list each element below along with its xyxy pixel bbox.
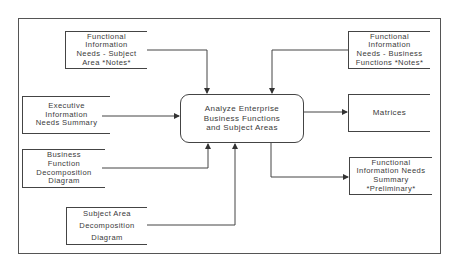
arrow-subject-area-notes-to-process [147, 50, 207, 93]
store-bf-decomposition: Business Function Decomposition Diagram [22, 149, 105, 188]
store-label: Matrices [373, 109, 406, 118]
store-fin-summary: Functional Information Needs Summary *Pr… [349, 157, 432, 195]
store-label: Functional Information Needs Summary *Pr… [357, 159, 426, 193]
store-label: Functional Information Needs - Business … [356, 33, 424, 67]
store-label: Business Function Decomposition Diagram [36, 151, 91, 185]
store-sa-decomposition: Subject Area Decomposition Diagram [66, 207, 147, 245]
arrow-sa-decomp-to-process [147, 144, 235, 225]
store-fin-subject-area: Functional Information Needs - Subject A… [65, 31, 147, 69]
store-matrices: Matrices [348, 94, 430, 132]
store-label: Functional Information Needs - Subject A… [76, 33, 136, 67]
store-label: Subject Area Decomposition Diagram [79, 208, 134, 244]
process-analyze-enterprise: Analyze Enterprise Business Functions an… [180, 94, 304, 143]
store-label: Executive Information Needs Summary [36, 102, 98, 128]
store-fin-business-functions: Functional Information Needs - Business … [348, 31, 430, 69]
arrow-business-functions-notes-to-process [272, 50, 348, 93]
arrow-bf-decomp-to-process [102, 144, 208, 168]
arrow-process-to-fin-summary [271, 143, 348, 177]
process-label: Analyze Enterprise Business Functions an… [204, 104, 281, 132]
store-executive-summary: Executive Information Needs Summary [22, 96, 110, 134]
